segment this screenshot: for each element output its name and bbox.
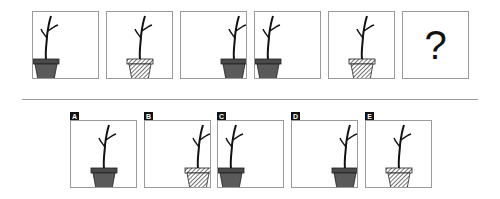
sequence-frame-4 [254,11,321,79]
divider [22,99,478,100]
option-b[interactable] [144,120,211,188]
solid-pot-plant-icon [218,121,284,188]
sequence-frame-1 [32,11,99,79]
option-d[interactable] [291,120,358,188]
sequence-frame-5 [328,11,395,79]
option-e[interactable] [365,120,432,188]
question-mark: ? [403,12,468,78]
hatched-pot-plant-icon [145,121,211,188]
solid-pot-plant-icon [33,12,99,79]
solid-pot-plant-icon [255,12,321,79]
solid-pot-plant-icon [181,12,247,79]
sequence-frame-unknown: ? [402,11,469,79]
sequence-frame-2 [106,11,173,79]
option-c[interactable] [217,120,284,188]
option-a[interactable] [70,120,137,188]
solid-pot-plant-icon [71,121,137,188]
sequence-frame-3 [180,11,247,79]
hatched-pot-plant-icon [329,12,395,79]
hatched-pot-plant-icon [366,121,432,188]
solid-pot-plant-icon [292,121,358,188]
hatched-pot-plant-icon [107,12,173,79]
